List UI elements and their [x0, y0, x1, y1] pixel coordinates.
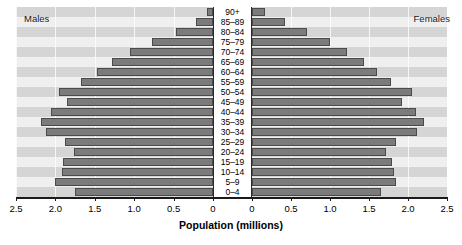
bar-female	[252, 128, 417, 136]
x-tick-mark	[330, 197, 331, 201]
age-group-label: 80–84	[214, 28, 251, 37]
x-tick-right-3: 1.5	[362, 203, 375, 214]
bar-female	[252, 138, 396, 146]
bar-female	[252, 168, 394, 176]
bar-male	[176, 28, 213, 36]
x-tick-right-2: 1.0	[323, 203, 336, 214]
age-group-label: 35–39	[214, 118, 251, 127]
bar-male	[81, 78, 213, 86]
x-tick-mark	[447, 197, 448, 201]
x-tick-mark	[252, 197, 253, 201]
bar-female	[252, 118, 424, 126]
age-group-label: 45–49	[214, 98, 251, 107]
bar-female	[252, 18, 285, 26]
x-tick-mark	[408, 197, 409, 201]
age-group-label: 25–29	[214, 138, 251, 147]
x-tick-mark	[55, 197, 56, 201]
x-tick-left-1: 2.0	[49, 203, 62, 214]
age-group-label: 90+	[214, 8, 251, 17]
bar-male	[59, 88, 213, 96]
bar-female	[252, 88, 412, 96]
bar-male	[67, 98, 213, 106]
age-group-label: 0–4	[214, 188, 251, 197]
age-group-label-column: 90+85–8980–8475–7970–7465–6960–6455–5950…	[213, 7, 252, 197]
x-tick-right-5: 2.5	[440, 203, 453, 214]
x-tick-right-1: 0.5	[284, 203, 297, 214]
bar-female	[252, 78, 391, 86]
bar-female	[252, 48, 347, 56]
x-tick-mark	[174, 197, 175, 201]
age-group-label: 55–59	[214, 78, 251, 87]
population-pyramid-chart: 90+85–8980–8475–7970–7465–6960–6455–5950…	[0, 0, 462, 245]
x-tick-mark	[369, 197, 370, 201]
x-tick-left-5: 0	[210, 203, 215, 214]
x-tick-mark	[95, 197, 96, 201]
bar-male	[112, 58, 213, 66]
x-tick-left-4: 0.5	[167, 203, 180, 214]
bar-female	[252, 98, 402, 106]
age-group-label: 50–54	[214, 88, 251, 97]
bar-male	[62, 168, 213, 176]
bar-female	[252, 188, 381, 196]
bar-male	[196, 18, 213, 26]
bar-male	[75, 188, 213, 196]
gridline	[16, 7, 17, 197]
age-group-label: 65–69	[214, 58, 251, 67]
bar-female	[252, 28, 307, 36]
legend-label-males: Males	[24, 13, 49, 24]
bar-female	[252, 158, 392, 166]
age-group-label: 10–14	[214, 168, 251, 177]
x-tick-left-3: 1.0	[128, 203, 141, 214]
age-group-label: 5–9	[214, 178, 251, 187]
bar-male	[97, 68, 213, 76]
x-tick-mark	[213, 197, 214, 201]
age-group-label: 60–64	[214, 68, 251, 77]
bar-male	[152, 38, 213, 46]
x-axis-title: Population (millions)	[0, 219, 462, 231]
gridline	[447, 7, 448, 197]
bar-male	[41, 118, 213, 126]
bar-male	[65, 138, 213, 146]
x-tick-mark	[291, 197, 292, 201]
x-axis-line	[16, 197, 447, 199]
x-tick-mark	[134, 197, 135, 201]
x-tick-mark	[16, 197, 17, 201]
bar-female	[252, 68, 377, 76]
age-group-label: 70–74	[214, 48, 251, 57]
age-group-label: 40–44	[214, 108, 251, 117]
bar-female	[252, 178, 396, 186]
bar-female	[252, 58, 364, 66]
age-group-label: 15–19	[214, 158, 251, 167]
bar-male	[130, 48, 213, 56]
bar-female	[252, 8, 265, 16]
bar-male	[51, 108, 213, 116]
legend-label-females: Females	[414, 13, 450, 24]
bar-female	[252, 148, 386, 156]
bar-male	[74, 148, 213, 156]
x-tick-right-0: 0	[249, 203, 254, 214]
gridline	[55, 7, 56, 197]
age-group-label: 20–24	[214, 148, 251, 157]
gridline	[408, 7, 409, 197]
x-tick-right-4: 2.0	[401, 203, 414, 214]
age-group-label: 85–89	[214, 18, 251, 27]
age-group-label: 75–79	[214, 38, 251, 47]
x-tick-left-2: 1.5	[88, 203, 101, 214]
bar-male	[55, 178, 213, 186]
age-group-label: 30–34	[214, 128, 251, 137]
bar-male	[46, 128, 213, 136]
bar-male	[63, 158, 213, 166]
x-tick-left-0: 2.5	[9, 203, 22, 214]
bar-female	[252, 38, 330, 46]
bar-female	[252, 108, 416, 116]
